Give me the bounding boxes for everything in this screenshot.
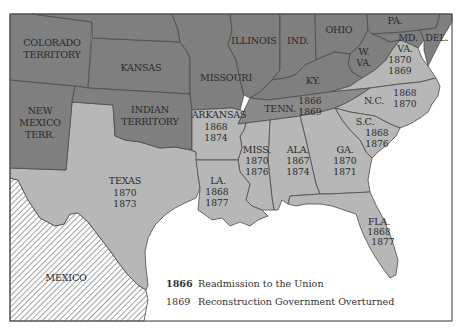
texas-readmission-year: 1870 (113, 187, 137, 198)
label-texas: TEXAS (109, 175, 141, 186)
label-delaware: DEL. (425, 32, 448, 43)
label-ohio: OHIO (325, 24, 352, 35)
arkansas-overturned-year: 1874 (204, 132, 228, 143)
label-virginia: VA. (396, 43, 413, 54)
label-colorado-line2: TERRITORY (23, 49, 81, 60)
label-indiana: IND. (287, 35, 309, 46)
label-new-mexico-line1: NEW (28, 105, 53, 116)
north-carolina-readmission-year: 1868 (393, 87, 417, 98)
tennessee-readmission-year: 1866 (298, 95, 322, 106)
label-arkansas: ARKANSAS (191, 109, 247, 120)
south-carolina-readmission-year: 1868 (365, 127, 389, 138)
mississippi-readmission-year: 1870 (245, 155, 269, 166)
label-mexico: MEXICO (45, 272, 87, 283)
reconstruction-map: COLORADO TERRITORY KANSAS MISSOURI ILLIN… (0, 0, 460, 336)
legend-text-readmission: Readmission to the Union (198, 278, 324, 289)
louisiana-readmission-year: 1868 (205, 186, 229, 197)
label-georgia: GA. (336, 144, 353, 155)
legend-year-overturned: 1869 (166, 296, 190, 307)
alabama-readmission-year: 1867 (286, 155, 310, 166)
label-north-carolina: N.C. (364, 95, 384, 106)
label-louisiana: LA. (210, 175, 226, 186)
label-kansas: KANSAS (121, 62, 162, 73)
texas-overturned-year: 1873 (113, 198, 137, 209)
label-mississippi: MISS. (243, 144, 271, 155)
label-alabama: ALA. (286, 144, 310, 155)
alabama-overturned-year: 1874 (286, 166, 310, 177)
virginia-readmission-year: 1870 (388, 54, 412, 65)
label-missouri: MISSOURI (200, 72, 252, 83)
label-colorado-line1: COLORADO (23, 37, 81, 48)
north-carolina-overturned-year: 1870 (393, 98, 417, 109)
label-new-mexico-line2: MEXICO (19, 117, 61, 128)
louisiana-overturned-year: 1877 (205, 197, 229, 208)
legend-year-readmission: 1866 (166, 278, 193, 289)
label-pennsylvania: PA. (388, 15, 403, 26)
label-new-mexico-line3: TERR. (25, 129, 55, 140)
florida-overturned-year: 1877 (371, 236, 395, 247)
label-illinois: ILLINOIS (231, 35, 276, 46)
label-maryland: MD. (398, 32, 418, 43)
label-west-virginia-line2: VA. (355, 57, 372, 68)
virginia-overturned-year: 1869 (388, 65, 412, 76)
arkansas-readmission-year: 1868 (204, 121, 228, 132)
label-west-virginia-line1: W. (359, 46, 370, 57)
label-indian-territory-line2: TERRITORY (121, 116, 179, 127)
label-indian-territory-line1: INDIAN (131, 104, 169, 115)
label-south-carolina: S.C. (356, 116, 375, 127)
label-kentucky: KY. (306, 75, 321, 86)
georgia-readmission-year: 1870 (333, 155, 357, 166)
south-carolina-overturned-year: 1876 (365, 138, 389, 149)
georgia-overturned-year: 1871 (333, 166, 356, 177)
mississippi-overturned-year: 1876 (245, 166, 269, 177)
tennessee-overturned-year: 1869 (298, 106, 322, 117)
legend-text-overturned: Reconstruction Government Overturned (198, 296, 394, 307)
label-tennessee: TENN. (264, 103, 296, 114)
